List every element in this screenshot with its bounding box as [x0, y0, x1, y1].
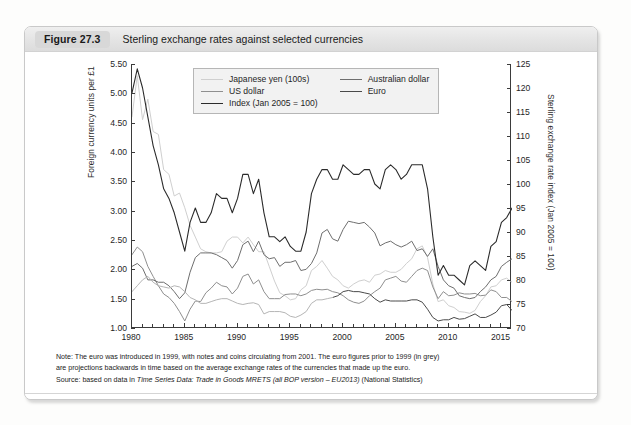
- y-tick-mark-left: [131, 240, 135, 241]
- legend-item-us-dollar: US dollar: [201, 86, 318, 96]
- legend-swatch-icon: [201, 79, 223, 80]
- y-tick-label-right: 105: [516, 155, 530, 165]
- x-tick-mark: [194, 324, 195, 328]
- y-axis-title-left: Foreign currency units per £1: [86, 28, 96, 178]
- x-tick-mark: [395, 323, 396, 328]
- x-tick-mark: [469, 324, 470, 328]
- y-tick-mark-right: [507, 328, 511, 329]
- y-tick-mark-left: [131, 269, 135, 270]
- x-tick-label: 2015: [491, 332, 510, 342]
- legend-label: US dollar: [229, 86, 264, 96]
- y-tick-mark-right: [507, 112, 511, 113]
- legend-swatch-icon: [340, 91, 362, 92]
- x-tick-mark: [279, 324, 280, 328]
- y-tick-label-right: 85: [516, 251, 526, 261]
- x-tick-mark: [342, 323, 343, 328]
- y-tick-mark-left: [131, 93, 135, 94]
- chart-legend: Japanese yen (100s) Australian dollar US…: [193, 68, 439, 114]
- legend-swatch-icon: [340, 79, 362, 80]
- x-tick-mark: [458, 324, 459, 328]
- x-tick-mark: [184, 323, 185, 328]
- x-tick-mark: [205, 324, 206, 328]
- y-tick-label-right: 70: [516, 323, 526, 333]
- y-tick-mark-right: [507, 232, 511, 233]
- x-tick-mark: [479, 324, 480, 328]
- y-tick-label-right: 125: [516, 59, 530, 69]
- y-tick-label-right: 90: [516, 227, 526, 237]
- y-tick-label-left: 4.50: [110, 118, 127, 128]
- y-tick-mark-right: [507, 256, 511, 257]
- x-tick-mark: [173, 324, 174, 328]
- y-tick-label-left: 2.50: [110, 235, 127, 245]
- y-tick-mark-left: [131, 328, 135, 329]
- x-tick-mark: [300, 324, 301, 328]
- x-tick-mark: [332, 324, 333, 328]
- x-tick-mark: [321, 324, 322, 328]
- legend-item-index: Index (Jan 2005 = 100): [201, 98, 318, 108]
- y-tick-label-right: 95: [516, 203, 526, 213]
- x-tick-mark: [353, 324, 354, 328]
- series-line: [132, 221, 512, 298]
- y-tick-label-left: 2.00: [110, 264, 127, 274]
- x-tick-mark: [437, 324, 438, 328]
- y-tick-label-left: 3.50: [110, 176, 127, 186]
- source-citation: Time Series Data: Trade in Goods MRETS (…: [137, 376, 360, 384]
- x-tick-mark: [289, 323, 290, 328]
- y-tick-mark-right: [507, 136, 511, 137]
- y-tick-mark-right: [507, 304, 511, 305]
- x-tick-mark: [163, 324, 164, 328]
- legend-item-australian-dollar: Australian dollar: [340, 74, 430, 84]
- y-tick-mark-left: [131, 152, 135, 153]
- note-line-2: are projections backwards in time based …: [56, 363, 576, 374]
- legend-label: Australian dollar: [368, 74, 430, 84]
- x-tick-mark: [237, 323, 238, 328]
- x-tick-mark: [363, 324, 364, 328]
- x-tick-label: 1990: [227, 332, 246, 342]
- y-tick-mark-right: [507, 64, 511, 65]
- x-tick-mark: [384, 324, 385, 328]
- y-tick-label-right: 100: [516, 179, 530, 189]
- y-tick-mark-right: [507, 280, 511, 281]
- chart-area: Foreign currency units per £1 Sterling e…: [25, 58, 597, 348]
- x-tick-mark: [258, 324, 259, 328]
- y-tick-label-left: 5.50: [110, 59, 127, 69]
- y-tick-mark-right: [507, 208, 511, 209]
- x-tick-mark: [416, 324, 417, 328]
- page-root: Figure 27.3 Sterling exchange rates agai…: [0, 0, 631, 425]
- y-tick-label-right: 120: [516, 83, 530, 93]
- x-tick-mark: [374, 324, 375, 328]
- y-tick-label-right: 80: [516, 275, 526, 285]
- legend-label: Index (Jan 2005 = 100): [229, 98, 318, 108]
- y-tick-label-left: 4.00: [110, 147, 127, 157]
- legend-swatch-icon: [201, 103, 223, 104]
- x-tick-mark: [268, 324, 269, 328]
- figure-header: Figure 27.3 Sterling exchange rates agai…: [25, 27, 597, 52]
- source-line: Source: based on data in Time Series Dat…: [56, 375, 576, 386]
- figure-card: Figure 27.3 Sterling exchange rates agai…: [24, 26, 598, 400]
- x-tick-mark: [427, 324, 428, 328]
- x-tick-mark: [226, 324, 227, 328]
- y-tick-label-left: 5.00: [110, 88, 127, 98]
- y-tick-mark-left: [131, 211, 135, 212]
- x-tick-mark: [490, 324, 491, 328]
- x-tick-label: 2010: [438, 332, 457, 342]
- x-tick-mark: [215, 324, 216, 328]
- x-tick-mark: [131, 323, 132, 328]
- x-tick-mark: [310, 324, 311, 328]
- legend-item-japanese-yen: Japanese yen (100s): [201, 74, 318, 84]
- figure-number-badge: Figure 27.3: [35, 31, 110, 48]
- y-tick-mark-left: [131, 123, 135, 124]
- figure-notes: Note: The euro was introduced in 1999, w…: [56, 352, 576, 386]
- legend-swatch-icon: [201, 91, 223, 92]
- y-axis-title-right: Sterling exchange rate index (Jan 2005 =…: [546, 94, 556, 324]
- y-tick-label-right: 110: [516, 131, 530, 141]
- legend-item-euro: Euro: [340, 86, 430, 96]
- y-tick-label-right: 115: [516, 107, 530, 117]
- x-tick-label: 2000: [333, 332, 352, 342]
- y-tick-mark-right: [507, 160, 511, 161]
- legend-label: Japanese yen (100s): [229, 74, 309, 84]
- y-tick-mark-right: [507, 184, 511, 185]
- x-tick-label: 2005: [385, 332, 404, 342]
- series-line: [132, 247, 512, 321]
- x-tick-mark: [405, 324, 406, 328]
